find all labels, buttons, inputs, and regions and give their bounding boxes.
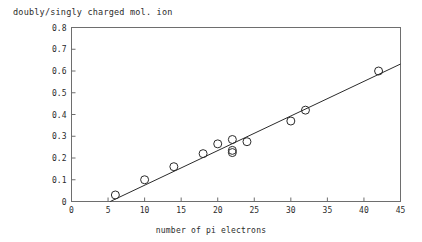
data-point-marker bbox=[228, 136, 236, 144]
chart-figure: doubly/singly charged mol. ion 051015202… bbox=[0, 0, 422, 242]
x-axis-tick-label: 30 bbox=[286, 206, 296, 215]
scatter-plot: 05101520253035404500.10.20.30.40.50.60.7… bbox=[0, 0, 422, 242]
x-axis-tick-label: 45 bbox=[396, 206, 406, 215]
x-axis-tick-label: 5 bbox=[106, 206, 111, 215]
x-axis-tick-label: 35 bbox=[323, 206, 333, 215]
y-axis-tick-label: 0.1 bbox=[52, 176, 67, 185]
y-axis-tick-label: 0.7 bbox=[52, 45, 67, 54]
x-axis-tick-label: 25 bbox=[249, 206, 259, 215]
y-axis-tick-label: 0.5 bbox=[52, 89, 67, 98]
data-point-marker bbox=[375, 67, 383, 75]
data-point-marker bbox=[214, 140, 222, 148]
y-axis-tick-label: 0.8 bbox=[52, 24, 67, 33]
x-axis-tick-label: 15 bbox=[176, 206, 186, 215]
x-axis-label: number of pi electrons bbox=[0, 226, 422, 235]
data-point-marker bbox=[170, 163, 178, 171]
y-axis-tick-label: 0.4 bbox=[52, 111, 67, 120]
data-point-marker bbox=[141, 176, 149, 184]
data-point-marker bbox=[199, 150, 207, 158]
data-point-marker bbox=[287, 117, 295, 125]
data-point-marker bbox=[243, 138, 251, 146]
fit-line bbox=[110, 64, 400, 201]
x-axis-tick-label: 0 bbox=[69, 206, 74, 215]
data-point-marker bbox=[111, 191, 119, 199]
y-axis-tick-label: 0.2 bbox=[52, 154, 67, 163]
x-axis-tick-label: 10 bbox=[140, 206, 150, 215]
y-axis-tick-label: 0 bbox=[62, 198, 67, 207]
y-axis-tick-label: 0.6 bbox=[52, 67, 67, 76]
plot-frame bbox=[72, 28, 401, 202]
x-axis-tick-label: 20 bbox=[213, 206, 223, 215]
y-axis-tick-label: 0.3 bbox=[52, 132, 67, 141]
x-axis-tick-label: 40 bbox=[359, 206, 369, 215]
